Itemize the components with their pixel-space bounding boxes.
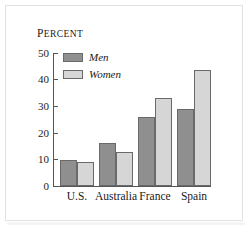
bar-france-men [138,117,155,186]
y-tick-20 [53,133,58,134]
y-tick-label-0: 0 [27,181,49,192]
y-tick-label-20: 20 [27,128,49,139]
bar-us-women [77,162,94,186]
x-axis-line [53,186,211,187]
y-axis-title: PERCENT [37,27,83,39]
bar-spain-men [177,109,194,186]
legend-item-men: Men [63,50,121,64]
legend-item-women: Women [63,67,121,81]
legend-swatch-women-icon [63,70,83,79]
y-tick-10 [53,159,58,160]
x-label-spain: Spain [169,190,219,202]
y-tick-label-10: 10 [27,154,49,165]
bar-australia-women [116,152,133,186]
y-tick-50 [53,53,58,54]
y-tick-40 [53,79,58,80]
y-tick-30 [53,106,58,107]
chart-legend: Men Women [63,50,121,84]
y-axis-line [53,53,54,186]
legend-label-men: Men [89,52,109,63]
bar-chart: PERCENT 50 40 30 20 10 0 U.S. Australia … [0,0,250,234]
bar-us-men [60,160,77,186]
y-tick-0 [53,186,58,187]
y-tick-label-50: 50 [27,48,49,59]
y-tick-label-40: 40 [27,74,49,85]
legend-label-women: Women [89,69,121,80]
legend-swatch-men-icon [63,53,83,62]
y-tick-label-30: 30 [27,101,49,112]
bar-france-women [155,98,172,186]
chart-screenshot: PERCENT 50 40 30 20 10 0 U.S. Australia … [0,0,250,234]
bar-australia-men [99,143,116,186]
bar-spain-women [194,70,211,186]
